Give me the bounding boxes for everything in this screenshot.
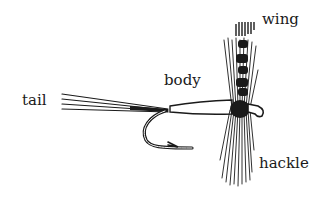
label-tail: tail (22, 93, 47, 108)
fly-diagram: wing body tail hackle (0, 0, 330, 200)
label-body: body (164, 73, 201, 88)
label-hackle: hackle (259, 156, 309, 171)
hook (144, 111, 192, 148)
thorax (230, 100, 250, 118)
body (170, 100, 232, 114)
tail-fibers (62, 94, 168, 112)
label-wing: wing (262, 12, 299, 27)
